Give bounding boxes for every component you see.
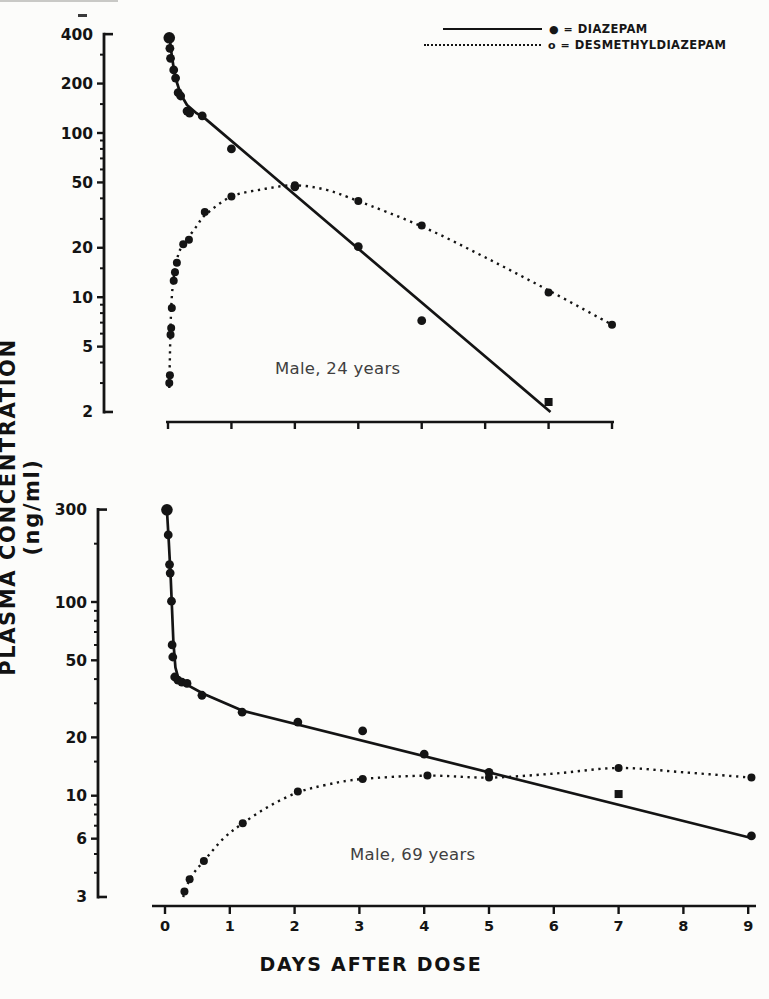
- y-tick-label: 20: [71, 239, 93, 257]
- diazepam-data-point: [420, 750, 429, 759]
- desmethyldiazepam-data-point: [608, 321, 616, 329]
- diazepam-data-point: [358, 727, 367, 736]
- diazepam-data-point: [185, 109, 194, 118]
- desmethyldiazepam-data-point: [167, 324, 175, 332]
- x-tick-label: 0: [160, 918, 170, 934]
- desmethyldiazepam-data-point: [227, 193, 235, 201]
- y-tick-label: 50: [71, 174, 93, 192]
- y-tick-label: 20: [65, 729, 87, 747]
- desmethyldiazepam-series: [180, 764, 755, 897]
- desmethyldiazepam-data-point: [485, 774, 493, 782]
- diazepam-series: [161, 504, 756, 840]
- diazepam-data-point: [163, 32, 175, 44]
- solid-line-sample: [443, 28, 542, 30]
- y-tick-label: 6: [76, 830, 87, 848]
- diazepam-data-point: [183, 679, 192, 688]
- y-tick-label: 100: [55, 594, 88, 612]
- diazepam-data-point: [165, 560, 174, 569]
- diazepam-data-point: [171, 74, 180, 83]
- panel-bottom: 300100502010630123456789: [55, 501, 756, 934]
- diazepam-data-point: [168, 653, 177, 662]
- panel-annotation-bottom: Male, 69 years: [350, 845, 475, 864]
- diazepam-data-point: [198, 112, 207, 121]
- desmethyldiazepam-data-point: [354, 197, 362, 205]
- diazepam-data-point: [166, 44, 175, 53]
- desmethyldiazepam-data-point: [615, 764, 623, 772]
- diazepam-data-point: [227, 145, 236, 154]
- filled-circle-marker-icon: ●: [549, 23, 559, 36]
- desmethyldiazepam-dotted-line: [183, 768, 751, 897]
- axes: 300100502010630123456789: [55, 501, 756, 934]
- desmethyldiazepam-data-point: [171, 268, 179, 276]
- legend-equals: =: [564, 23, 573, 36]
- legend-item-desmethyldiazepam: o = DESMETHYLDIAZEPAM: [424, 37, 726, 53]
- legend-label-diazepam: DIAZEPAM: [578, 22, 648, 36]
- x-tick-label: 4: [419, 918, 429, 934]
- diazepam-data-point: [161, 504, 173, 516]
- diazepam-series: [163, 32, 552, 412]
- x-tick-label: 9: [743, 918, 753, 934]
- desmethyldiazepam-data-point: [239, 819, 247, 827]
- diazepam-data-point: [615, 790, 623, 798]
- desmethyldiazepam-data-point: [359, 775, 367, 783]
- diazepam-solid-line: [167, 510, 752, 838]
- diazepam-data-point: [168, 641, 177, 650]
- x-tick-label: 8: [678, 918, 688, 934]
- diazepam-data-point: [167, 597, 176, 606]
- panel-annotation-top: Male, 24 years: [275, 359, 400, 378]
- desmethyldiazepam-data-point: [165, 379, 173, 387]
- desmethyldiazepam-data-point: [201, 208, 209, 216]
- y-axis-title: PLASMA CONCENTRATION (ng/ml): [0, 290, 44, 724]
- desmethyldiazepam-data-point: [418, 222, 426, 230]
- diazepam-data-point: [166, 569, 175, 578]
- desmethyldiazepam-series: [165, 181, 616, 388]
- desmethyldiazepam-data-point: [168, 304, 176, 312]
- y-tick-label: 10: [65, 787, 87, 805]
- x-tick-label: 2: [290, 918, 300, 934]
- legend-item-diazepam: ● = DIAZEPAM: [424, 21, 726, 37]
- x-tick-label: 5: [484, 918, 494, 934]
- figure: 4002001005020105230010050201063012345678…: [0, 0, 769, 999]
- diazepam-data-point: [747, 832, 756, 841]
- desmethyldiazepam-data-point: [166, 371, 174, 379]
- desmethyldiazepam-dotted-line: [169, 185, 612, 388]
- x-axis-title: DAYS AFTER DOSE: [256, 953, 486, 975]
- desmethyldiazepam-data-point: [291, 181, 299, 189]
- y-tick-label: 400: [61, 26, 94, 44]
- desmethyldiazepam-data-point: [186, 875, 194, 883]
- diazepam-data-point: [354, 242, 363, 251]
- y-tick-label: 300: [55, 501, 88, 519]
- x-tick-label: 7: [614, 918, 624, 934]
- y-tick-label: 5: [82, 338, 93, 356]
- desmethyldiazepam-data-point: [200, 857, 208, 865]
- diazepam-data-point: [176, 92, 185, 101]
- desmethyldiazepam-data-point: [423, 772, 431, 780]
- x-tick-label: 6: [549, 918, 559, 934]
- y-tick-label: 50: [65, 652, 87, 670]
- y-tick-label: 100: [61, 125, 94, 143]
- desmethyldiazepam-data-point: [170, 277, 178, 285]
- y-tick-label: 10: [71, 289, 93, 307]
- diazepam-data-point: [417, 316, 426, 325]
- y-tick-label: 2: [82, 403, 93, 421]
- diazepam-data-point: [545, 398, 553, 406]
- desmethyldiazepam-data-point: [545, 288, 553, 296]
- desmethyldiazepam-data-point: [185, 236, 193, 244]
- x-tick-label: 1: [225, 918, 235, 934]
- legend-equals: =: [561, 39, 570, 52]
- desmethyldiazepam-data-point: [747, 774, 755, 782]
- x-tick-label: 3: [354, 918, 364, 934]
- desmethyldiazepam-data-point: [173, 259, 181, 267]
- diazepam-data-point: [169, 66, 178, 75]
- diazepam-data-point: [166, 54, 175, 63]
- diazepam-data-point: [198, 691, 207, 700]
- legend: ● = DIAZEPAM o = DESMETHYLDIAZEPAM: [424, 21, 726, 53]
- dotted-line-sample: [424, 44, 541, 46]
- desmethyldiazepam-data-point: [167, 331, 175, 339]
- diazepam-data-point: [238, 708, 247, 717]
- legend-label-desmethyldiazepam: DESMETHYLDIAZEPAM: [575, 38, 727, 52]
- diazepam-solid-line: [169, 35, 550, 412]
- diazepam-data-point: [293, 718, 302, 727]
- y-tick-label: 200: [61, 75, 94, 93]
- desmethyldiazepam-data-point: [180, 888, 188, 896]
